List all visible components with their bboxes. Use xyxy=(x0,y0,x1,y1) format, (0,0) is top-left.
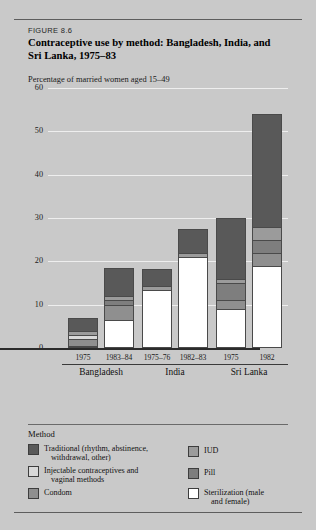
bar-0[interactable] xyxy=(68,318,98,348)
y-tick-label-60: 60 xyxy=(35,84,43,92)
y-tick-label-20: 20 xyxy=(35,257,43,265)
bar-4[interactable] xyxy=(216,218,246,348)
bars-and-grid: 0102030405060 xyxy=(48,88,288,348)
figure-number-label: FIGURE 8.6 xyxy=(28,26,72,35)
bar-segment xyxy=(178,257,208,348)
legend-label-traditional: Traditional (rhythm, abstinence,withdraw… xyxy=(44,444,148,463)
legend-swatch-traditional xyxy=(28,444,39,455)
bar-segment xyxy=(252,266,282,348)
legend-label-sterilization: Sterilization (maleand female) xyxy=(204,488,264,507)
bar-segment xyxy=(142,290,172,349)
bar-segment xyxy=(252,114,282,227)
bar-segment xyxy=(216,309,246,348)
bar-segment xyxy=(142,269,172,286)
legend-item-pill[interactable]: Pill xyxy=(188,468,215,479)
bar-segment xyxy=(104,320,134,348)
legend-label-injectable: Injectable contraceptives andvaginal met… xyxy=(44,466,138,485)
bar-2[interactable] xyxy=(142,269,172,348)
legend-label-condom: Condom xyxy=(44,488,72,497)
gridline-60: 60 xyxy=(48,88,288,89)
bar-segment xyxy=(104,268,134,296)
legend-item-sterilization[interactable]: Sterilization (maleand female) xyxy=(188,488,264,507)
legend-item-condom[interactable]: Condom xyxy=(28,488,72,499)
legend-item-injectable[interactable]: Injectable contraceptives andvaginal met… xyxy=(28,466,138,485)
group-underline-0 xyxy=(62,364,140,365)
group-underline-2 xyxy=(210,364,288,365)
bar-3[interactable] xyxy=(178,229,208,348)
y-axis-caption: Percentage of married women aged 15–49 xyxy=(28,75,170,84)
legend-swatch-iud xyxy=(188,446,199,457)
legend-item-iud[interactable]: IUD xyxy=(188,446,218,457)
legend-label-pill: Pill xyxy=(204,468,215,477)
legend-label-iud: IUD xyxy=(204,446,218,455)
legend-swatch-sterilization xyxy=(188,488,199,499)
x-axis-labels: 19751983–841975–761982–8319751982Banglad… xyxy=(14,350,302,396)
bar-segment xyxy=(68,318,98,331)
bar-segment xyxy=(252,227,282,240)
y-tick-label-30: 30 xyxy=(35,214,43,222)
legend-items: Traditional (rhythm, abstinence,withdraw… xyxy=(28,444,290,506)
chart-plot-area: 0102030405060 19751983–841975–761982–831… xyxy=(14,88,302,388)
y-tick-label-40: 40 xyxy=(35,171,43,179)
legend-swatch-condom xyxy=(28,488,39,499)
bar-segment xyxy=(104,305,134,320)
x-tick-label-5: 1982 xyxy=(243,353,291,362)
group-label-sri-lanka: Sri Lanka xyxy=(200,367,298,377)
y-tick-label-50: 50 xyxy=(35,127,43,135)
legend-heading: Method xyxy=(28,429,290,439)
y-tick-label-10: 10 xyxy=(35,301,43,309)
bar-1[interactable] xyxy=(104,268,134,348)
bar-segment xyxy=(216,300,246,309)
bar-segment xyxy=(252,253,282,266)
legend-swatch-injectable xyxy=(28,466,39,477)
figure-container: FIGURE 8.6 Contraceptive use by method: … xyxy=(14,19,302,513)
legend-item-traditional[interactable]: Traditional (rhythm, abstinence,withdraw… xyxy=(28,444,148,463)
figure-title: Contraceptive use by method: Bangladesh,… xyxy=(28,37,286,62)
legend-swatch-pill xyxy=(188,468,199,479)
bar-5[interactable] xyxy=(252,114,282,348)
bar-segment xyxy=(216,218,246,279)
legend-divider xyxy=(28,424,288,425)
bar-segment xyxy=(216,283,246,300)
bar-segment xyxy=(178,229,208,253)
group-underline-1 xyxy=(136,364,214,365)
legend: Method Traditional (rhythm, abstinence,w… xyxy=(28,429,290,506)
bar-segment xyxy=(252,240,282,253)
